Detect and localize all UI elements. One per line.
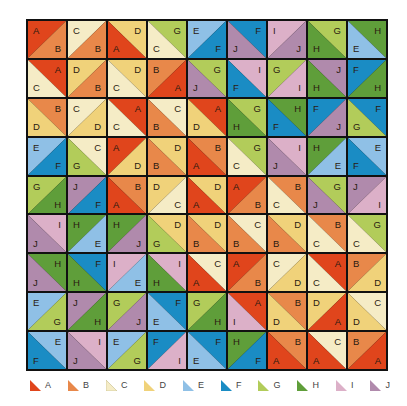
grid-cell[interactable]: BC bbox=[268, 177, 306, 214]
grid-cell[interactable]: AB bbox=[228, 254, 266, 291]
triangle-label: C bbox=[353, 239, 360, 249]
grid-cell[interactable]: AD bbox=[188, 99, 226, 136]
grid-cell[interactable]: CB bbox=[148, 99, 186, 136]
grid-cell[interactable]: FJ bbox=[228, 21, 266, 58]
grid-cell[interactable]: DG bbox=[148, 215, 186, 252]
grid-cell[interactable]: EF bbox=[348, 138, 386, 175]
grid-cell[interactable]: IJ bbox=[268, 21, 306, 58]
grid-cell[interactable]: GJ bbox=[108, 293, 146, 330]
grid-cell[interactable]: IJ bbox=[268, 138, 306, 175]
grid-cell[interactable]: CA bbox=[308, 332, 346, 369]
triangle-label: F bbox=[233, 83, 239, 93]
grid-cell[interactable]: JH bbox=[308, 60, 346, 97]
triangle-label: F bbox=[273, 122, 279, 132]
grid-cell[interactable]: JH bbox=[68, 293, 106, 330]
grid-cell[interactable]: AC bbox=[308, 254, 346, 291]
grid-cell[interactable]: CD bbox=[68, 99, 106, 136]
grid-cell[interactable]: GJ bbox=[308, 177, 346, 214]
grid-cell[interactable]: HJ bbox=[28, 254, 66, 291]
triangle-swatch-icon bbox=[370, 380, 381, 391]
triangle-label: D bbox=[94, 122, 101, 132]
grid-cell[interactable]: GH bbox=[308, 21, 346, 58]
grid-cell[interactable]: DC bbox=[108, 60, 146, 97]
grid-cell[interactable]: BD bbox=[348, 254, 386, 291]
grid-cell[interactable]: IJ bbox=[28, 215, 66, 252]
triangle-label: H bbox=[214, 317, 221, 327]
grid-cell[interactable]: EF bbox=[28, 138, 66, 175]
grid-cell[interactable]: BA bbox=[108, 177, 146, 214]
grid-cell[interactable]: BD bbox=[268, 293, 306, 330]
grid-cell[interactable]: CB bbox=[228, 215, 266, 252]
grid-cell[interactable]: GH bbox=[28, 177, 66, 214]
triangle-label: I bbox=[178, 356, 181, 366]
grid-cell[interactable]: HE bbox=[348, 21, 386, 58]
grid-cell[interactable]: GH bbox=[228, 99, 266, 136]
grid-cell[interactable]: BA bbox=[348, 332, 386, 369]
grid-cell[interactable]: DB bbox=[148, 138, 186, 175]
grid-cell[interactable]: AB bbox=[28, 21, 66, 58]
grid-cell[interactable]: GJ bbox=[188, 60, 226, 97]
grid-cell[interactable]: DC bbox=[148, 177, 186, 214]
grid-cell[interactable]: GH bbox=[188, 293, 226, 330]
grid-cell[interactable]: FH bbox=[348, 60, 386, 97]
grid-cell[interactable]: FE bbox=[188, 332, 226, 369]
grid-cell[interactable]: DA bbox=[308, 293, 346, 330]
triangle-label: B bbox=[295, 337, 301, 347]
grid-cell[interactable]: BA bbox=[188, 138, 226, 175]
triangle-label: F bbox=[353, 65, 359, 75]
grid-cell[interactable]: CD bbox=[348, 293, 386, 330]
grid-cell[interactable]: EG bbox=[28, 293, 66, 330]
grid-cell[interactable]: BA bbox=[148, 60, 186, 97]
grid-cell[interactable]: AB bbox=[228, 177, 266, 214]
grid-cell[interactable]: HF bbox=[228, 332, 266, 369]
grid-cell[interactable]: AC bbox=[28, 60, 66, 97]
grid-cell[interactable]: GC bbox=[148, 21, 186, 58]
grid-cell[interactable]: FJ bbox=[308, 99, 346, 136]
grid-cell[interactable]: IF bbox=[228, 60, 266, 97]
grid-cell[interactable]: EG bbox=[108, 332, 146, 369]
grid-cell[interactable]: FI bbox=[148, 332, 186, 369]
grid-cell[interactable]: GC bbox=[348, 215, 386, 252]
grid-cell[interactable]: IJ bbox=[68, 332, 106, 369]
grid-cell[interactable]: FE bbox=[148, 293, 186, 330]
grid-cell[interactable]: AC bbox=[108, 99, 146, 136]
grid-cell[interactable]: AI bbox=[228, 293, 266, 330]
grid-cell[interactable]: HJ bbox=[108, 215, 146, 252]
grid-cell[interactable]: HE bbox=[308, 138, 346, 175]
grid-cell[interactable]: DA bbox=[188, 177, 226, 214]
triangle-label: G bbox=[374, 220, 381, 230]
grid-cell[interactable]: IE bbox=[108, 254, 146, 291]
grid-cell[interactable]: FH bbox=[68, 254, 106, 291]
grid-cell[interactable]: CG bbox=[68, 138, 106, 175]
grid-cell[interactable]: DB bbox=[188, 215, 226, 252]
grid-cell[interactable]: BA bbox=[268, 332, 306, 369]
triangle-label: D bbox=[214, 220, 221, 230]
grid-cell[interactable]: FG bbox=[348, 99, 386, 136]
grid-cell[interactable]: GC bbox=[228, 138, 266, 175]
grid-cell[interactable]: DB bbox=[68, 60, 106, 97]
triangle-label: D bbox=[313, 298, 320, 308]
grid-cell[interactable]: CD bbox=[268, 254, 306, 291]
triangle-label: B bbox=[95, 44, 101, 54]
grid-cell[interactable]: JI bbox=[348, 177, 386, 214]
grid-cell[interactable]: BC bbox=[308, 215, 346, 252]
grid-cell[interactable]: DB bbox=[268, 215, 306, 252]
triangle-label: C bbox=[174, 104, 181, 114]
triangle-label: B bbox=[135, 182, 141, 192]
grid-cell[interactable]: DA bbox=[108, 21, 146, 58]
grid-cell[interactable]: BD bbox=[28, 99, 66, 136]
triangle-label: F bbox=[255, 356, 261, 366]
grid-cell[interactable]: HE bbox=[68, 215, 106, 252]
triangle-label: G bbox=[54, 317, 61, 327]
triangle-label: A bbox=[233, 182, 239, 192]
grid-cell[interactable]: CB bbox=[68, 21, 106, 58]
grid-cell[interactable]: JF bbox=[68, 177, 106, 214]
grid-cell[interactable]: EF bbox=[28, 332, 66, 369]
grid-cell[interactable]: CA bbox=[188, 254, 226, 291]
grid-cell[interactable]: HF bbox=[268, 99, 306, 136]
grid-cell[interactable]: IH bbox=[148, 254, 186, 291]
grid-cell[interactable]: AD bbox=[108, 138, 146, 175]
grid-cell[interactable]: GI bbox=[268, 60, 306, 97]
grid-cell[interactable]: EF bbox=[188, 21, 226, 58]
triangle-label: E bbox=[33, 298, 39, 308]
